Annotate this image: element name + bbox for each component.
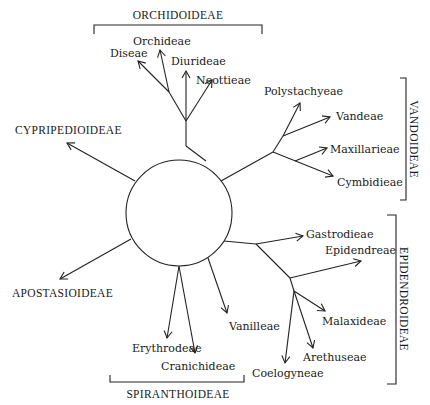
vanilleae-arrow bbox=[208, 258, 227, 313]
label-spiranthoideae: SPIRANTHOIDEAE bbox=[126, 388, 229, 400]
label-vandeae: Vandeae bbox=[335, 110, 383, 123]
label-coelogyneae: Coelogyneae bbox=[252, 367, 324, 380]
apostasioideae-arrow bbox=[60, 239, 131, 279]
label-cranichideae: Cranichideae bbox=[161, 360, 235, 373]
label-epidendroideae: EPIDENDROIDEAE bbox=[398, 247, 410, 351]
label-apostasioideae: APOSTASIOIDEAE bbox=[12, 287, 113, 299]
orchid-phylogeny-diagram: ORCHIDOIDEAE Orchideae Diseae Diurideae … bbox=[0, 0, 430, 405]
label-maxillarieae: Maxillarieae bbox=[330, 143, 400, 156]
spiranthoideae-branch bbox=[167, 266, 195, 353]
label-cymbidieae: Cymbidieae bbox=[337, 176, 403, 189]
label-erythrodeae: Erythrodeae bbox=[132, 342, 202, 355]
label-vanilleae: Vanilleae bbox=[228, 320, 280, 333]
label-malaxideae: Malaxideae bbox=[322, 315, 386, 328]
label-neottieae: Neottieae bbox=[196, 74, 251, 87]
vandoideae-branch bbox=[221, 103, 333, 181]
spiranthoideae-bracket bbox=[110, 375, 244, 382]
label-cypripedioideae: CYPRIPEDIOIDEAE bbox=[15, 124, 122, 136]
label-polystachyeae: Polystachyeae bbox=[264, 85, 343, 98]
label-gastrodieae: Gastrodieae bbox=[306, 228, 373, 241]
label-arethuseae: Arethuseae bbox=[302, 351, 367, 364]
cypripedioideae-arrow bbox=[67, 143, 135, 181]
label-epidendreae: Epidendreae bbox=[325, 244, 396, 257]
label-orchidoideae: ORCHIDOIDEAE bbox=[133, 9, 223, 21]
label-vandoideae: VANDOIDEAE bbox=[408, 100, 420, 178]
label-diurideae: Diurideae bbox=[171, 55, 226, 68]
label-diseae: Diseae bbox=[110, 47, 148, 60]
ancestor-circle bbox=[126, 160, 232, 266]
orchidoideae-bracket bbox=[94, 25, 262, 34]
epidendroideae-bracket bbox=[387, 215, 396, 384]
